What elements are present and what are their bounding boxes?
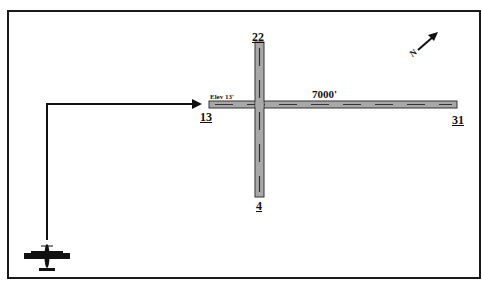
runway-4-22 [255,42,264,197]
runway-label-22: 22 [252,30,264,45]
flight-path [47,99,202,240]
runway-13-31 [209,101,457,108]
north-arrow-icon [418,32,438,50]
airplane-icon [24,244,70,271]
elevation-label: Elev 13' [210,93,234,101]
runway-label-31: 31 [452,113,464,128]
runway-intersection [256,102,264,108]
runway-length-label: 7000' [312,88,337,100]
runway-label-4: 4 [256,199,262,214]
runway-diagram [0,0,482,282]
runway-label-13: 13 [200,110,212,125]
